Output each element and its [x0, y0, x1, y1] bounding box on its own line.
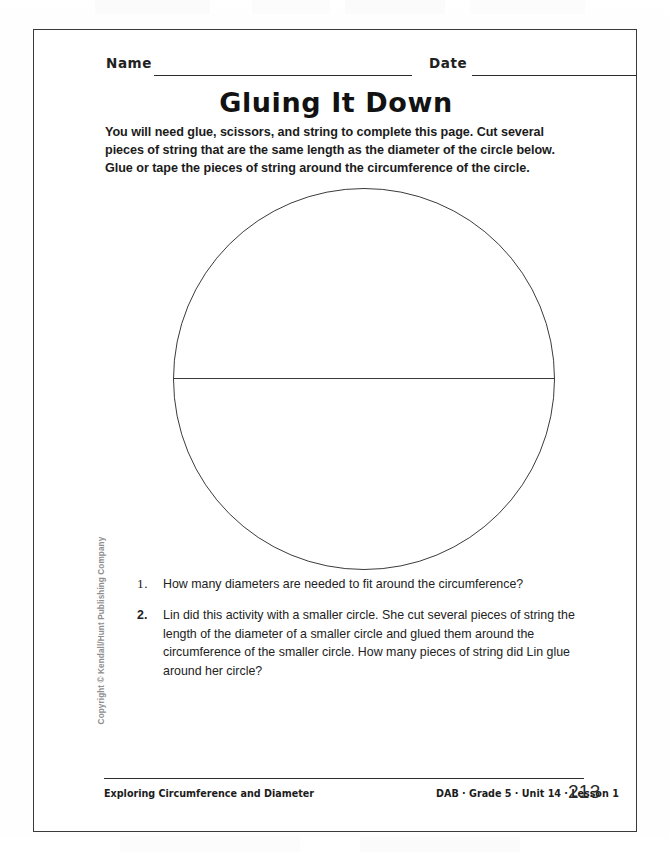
copyright-notice: Copyright © Kendall/Hunt Publishing Comp… [97, 536, 106, 726]
scan-artifact-top [0, 0, 670, 14]
page-title: Gluing It Down [34, 87, 638, 118]
page-number: 213 [568, 781, 601, 803]
date-write-in-line[interactable] [472, 75, 637, 76]
question-number-1: 1. [137, 575, 157, 593]
date-label: Date [429, 55, 467, 71]
diameter-line [173, 378, 555, 379]
scan-artifact-bottom [0, 836, 670, 852]
circle-figure [173, 188, 555, 570]
question-text-2: Lin did this activity with a smaller cir… [163, 608, 575, 677]
name-write-in-line[interactable] [154, 75, 412, 76]
question-number-2: 2. [137, 606, 157, 624]
footer: Exploring Circumference and Diameter DAB… [104, 786, 614, 806]
footer-divider [104, 778, 584, 779]
questions-list: 1. How many diameters are needed to fit … [137, 575, 597, 693]
question-item-2: 2. Lin did this activity with a smaller … [137, 606, 597, 680]
name-date-row: Name Date [106, 55, 606, 77]
instructions-paragraph: You will need glue, scissors, and string… [105, 123, 578, 178]
question-text-1: How many diameters are needed to fit aro… [163, 577, 523, 591]
name-label: Name [106, 55, 152, 71]
circle-outline [173, 188, 555, 570]
question-item-1: 1. How many diameters are needed to fit … [137, 575, 597, 593]
footer-lesson-title: Exploring Circumference and Diameter [104, 788, 314, 799]
scanned-page: Name Date Gluing It Down You will need g… [0, 0, 670, 852]
worksheet-page: Name Date Gluing It Down You will need g… [33, 29, 637, 832]
